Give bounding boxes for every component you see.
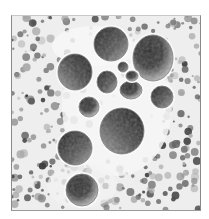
debris-particle <box>28 98 35 105</box>
debris-particle <box>41 143 46 148</box>
debris-particle <box>29 19 37 27</box>
debris-particle <box>187 116 189 118</box>
debris-particle <box>138 193 141 196</box>
debris-particle <box>45 203 50 208</box>
debris-particle <box>21 92 23 94</box>
debris-particle <box>101 16 109 21</box>
debris-particle <box>12 111 14 115</box>
debris-particle <box>159 164 164 169</box>
debris-particle <box>136 27 141 32</box>
debris-particle <box>191 148 199 156</box>
debris-particle <box>55 90 61 96</box>
debris-particle <box>41 20 44 23</box>
debris-particle <box>27 138 32 143</box>
debris-particle <box>38 194 46 202</box>
debris-particle <box>173 120 175 122</box>
debris-particle <box>41 98 46 103</box>
debris-particle <box>168 187 173 192</box>
debris-particle <box>57 118 64 125</box>
debris-particle <box>40 112 43 115</box>
debris-particle <box>191 178 197 184</box>
debris-particle <box>15 73 21 79</box>
debris-particle <box>47 129 51 133</box>
debris-particle <box>49 141 52 144</box>
debris-particle <box>33 57 37 61</box>
debris-particle <box>171 72 178 79</box>
debris-particle <box>148 171 152 175</box>
debris-particle <box>195 206 201 212</box>
cell-texture <box>58 131 92 165</box>
debris-particle <box>170 19 176 25</box>
debris-particle <box>49 159 55 165</box>
cell-texture <box>66 174 98 206</box>
debris-particle <box>173 27 176 30</box>
debris-particle <box>141 178 147 184</box>
debris-particle <box>17 31 23 37</box>
debris-particle <box>141 23 147 29</box>
debris-particle <box>172 140 180 148</box>
debris-particle <box>24 194 31 201</box>
debris-particle <box>163 191 168 196</box>
debris-particle <box>179 56 186 63</box>
debris-particle <box>192 168 199 175</box>
debris-particle <box>31 134 37 140</box>
debris-particle <box>171 197 176 202</box>
debris-particle <box>29 170 33 174</box>
debris-particle <box>177 110 184 117</box>
debris-particle <box>178 123 182 127</box>
debris-particle <box>131 174 135 178</box>
debris-particle <box>179 77 184 82</box>
debris-particle <box>200 22 201 25</box>
cell-texture <box>118 62 128 72</box>
debris-particle <box>19 108 23 112</box>
debris-particle <box>32 27 40 35</box>
debris-particle <box>130 16 136 22</box>
debris-particle <box>189 33 196 40</box>
debris-particle <box>36 77 41 82</box>
debris-particle <box>180 155 185 160</box>
micrograph-svg <box>12 16 201 211</box>
debris-particle <box>21 132 29 140</box>
debris-particle <box>25 50 27 52</box>
debris-particle <box>185 78 191 84</box>
debris-particle <box>35 184 40 189</box>
debris-particle <box>35 37 40 42</box>
cell-texture <box>94 27 128 61</box>
debris-particle <box>119 207 121 209</box>
cell-texture <box>126 71 138 81</box>
debris-particle <box>180 91 184 95</box>
debris-particle <box>185 153 191 159</box>
debris-particle <box>17 97 20 100</box>
debris-particle <box>47 63 55 71</box>
debris-particle <box>145 200 151 206</box>
debris-particle <box>155 173 163 181</box>
debris-particle <box>103 204 109 210</box>
debris-particle <box>20 149 28 157</box>
debris-particle <box>12 48 14 50</box>
debris-particle <box>196 141 201 146</box>
cell-texture <box>151 86 173 108</box>
debris-particle <box>191 185 199 193</box>
debris-particle <box>176 183 182 189</box>
debris-particle <box>181 146 188 153</box>
debris-particle <box>22 53 30 61</box>
debris-particle <box>128 27 132 31</box>
debris-particle <box>164 172 171 179</box>
debris-particle <box>194 75 200 81</box>
debris-particle <box>126 188 134 196</box>
debris-particle <box>41 189 44 192</box>
debris-particle <box>23 63 31 71</box>
debris-particle <box>182 66 189 73</box>
debris-particle <box>13 192 20 199</box>
debris-particle <box>151 29 155 33</box>
debris-particle <box>18 40 25 47</box>
debris-particle <box>183 162 186 165</box>
debris-particle <box>198 51 201 56</box>
debris-particle <box>60 128 65 133</box>
debris-particle <box>12 157 14 162</box>
cell-texture <box>79 97 99 117</box>
debris-particle <box>12 188 15 191</box>
debris-particle <box>49 16 52 19</box>
debris-particle <box>192 75 194 77</box>
debris-particle <box>141 198 146 203</box>
